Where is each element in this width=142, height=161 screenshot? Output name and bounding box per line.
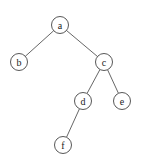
tree-edge-c-e — [108, 70, 119, 94]
tree-diagram: a b c d e f — [0, 0, 142, 161]
node-label: a — [58, 20, 63, 31]
tree-node-a: a — [52, 17, 69, 34]
tree-edge-a-c — [67, 30, 98, 56]
tree-nodes: a b c d e f — [11, 17, 131, 154]
tree-node-e: e — [114, 93, 131, 110]
node-label: b — [17, 57, 22, 68]
node-label: c — [102, 57, 107, 68]
tree-edges — [25, 30, 118, 137]
tree-node-c: c — [96, 54, 113, 71]
tree-edge-d-f — [67, 109, 80, 138]
tree-edge-a-b — [25, 31, 53, 57]
node-label: e — [120, 96, 125, 107]
tree-node-d: d — [75, 93, 92, 110]
node-label: d — [81, 96, 86, 107]
tree-node-f: f — [55, 137, 72, 154]
tree-node-b: b — [11, 54, 28, 71]
tree-edge-c-d — [87, 69, 100, 93]
